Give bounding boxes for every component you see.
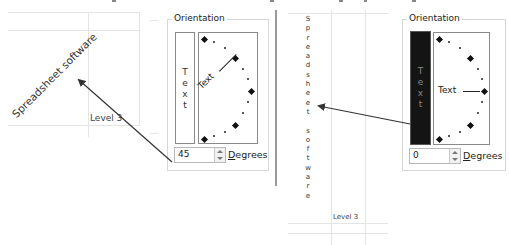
arrow-right <box>319 106 410 124</box>
arrow-left <box>79 80 172 162</box>
annotation-arrows <box>0 0 509 245</box>
